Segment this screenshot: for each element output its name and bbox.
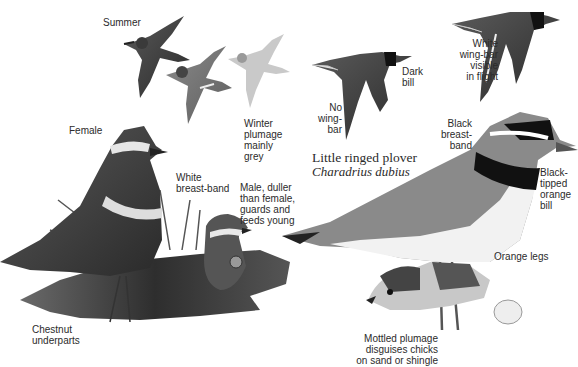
label-black-tipped-bill: Black- tipped orange bill	[540, 167, 571, 211]
label-winter-plumage: Winter plumage mainly grey	[244, 118, 282, 162]
label-male: Male, duller than female, guards and fee…	[240, 182, 295, 226]
label-black-breast-band: Black breast- band	[430, 118, 472, 151]
species-latin-name: Charadrius dubius	[312, 165, 417, 179]
label-summer: Summer	[103, 17, 141, 28]
label-white-wing-bar: White wing-bar visible in flight	[440, 38, 498, 82]
species-common-name: Little ringed plover	[312, 150, 417, 165]
label-chestnut-underparts: Chestnut underparts	[32, 324, 80, 346]
label-no-wing-bar: No wing- bar	[316, 102, 342, 135]
species-title: Little ringed plover Charadrius dubius	[312, 150, 417, 179]
label-dark-bill: Dark bill	[402, 66, 423, 88]
label-white-breast-band: White breast-band	[176, 172, 229, 194]
label-orange-legs: Orange legs	[494, 251, 548, 262]
flying-winter	[228, 34, 290, 108]
flying-summer-1	[124, 16, 190, 98]
chick	[366, 262, 522, 324]
label-mottled-plumage: Mottled plumage disguises chicks on sand…	[354, 333, 438, 366]
label-female: Female	[69, 125, 102, 136]
